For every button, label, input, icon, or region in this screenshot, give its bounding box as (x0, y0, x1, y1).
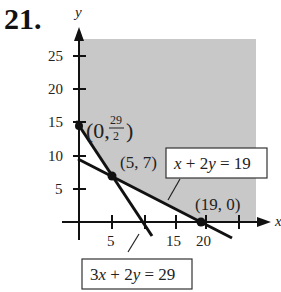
x-tick-15: 15 (166, 233, 181, 249)
x-axis-title: x (274, 213, 281, 229)
vertex-label-19-0: (19, 0) (195, 195, 240, 214)
x-tick-5: 5 (107, 233, 115, 249)
vertex-label-5-7: (5, 7) (120, 153, 157, 172)
y-tick-10: 10 (48, 148, 63, 164)
vertex-label-0-29-2: (0, 29 2 ) (86, 113, 133, 143)
svg-text:2: 2 (113, 129, 119, 143)
y-axis-title: y (73, 4, 82, 20)
y-tick-20: 20 (48, 81, 63, 97)
y-tick-15: 15 (48, 114, 63, 130)
x-tick-20: 20 (196, 233, 211, 249)
svg-text:29: 29 (110, 113, 122, 127)
callout-leader-eq2 (128, 234, 139, 252)
callout-eq1: x + 2y = 19 (173, 154, 251, 173)
vertex-19-0 (197, 218, 206, 227)
y-tick-5: 5 (55, 181, 63, 197)
y-tick-25: 25 (48, 48, 63, 64)
vertex-0-29-2 (75, 122, 83, 130)
y-axis-arrow (74, 27, 84, 41)
x-axis-arrow (257, 217, 271, 227)
chart: 5 10 15 20 25 5 15 20 y x (0, 29 2 ) (5,… (0, 0, 281, 292)
callout-eq2: 3x + 2y = 29 (90, 265, 175, 284)
vertex-5-7 (108, 172, 117, 181)
svg-text:): ) (126, 118, 133, 143)
svg-text:(0,: (0, (86, 118, 110, 143)
